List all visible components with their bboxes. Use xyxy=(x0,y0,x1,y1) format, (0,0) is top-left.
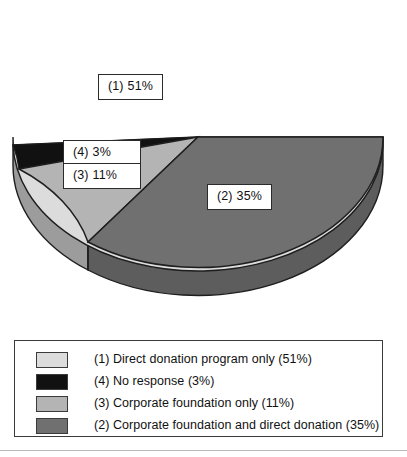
pie-label-slice-4: (4)3% xyxy=(63,140,141,166)
pie-chart-plot-area: (1)51% (4)3% (3)11% (2)35% xyxy=(0,0,407,320)
pie-label-slice-3: (3)11% xyxy=(63,163,141,189)
legend-item: (3) Corporate foundation only (11%) xyxy=(36,393,294,414)
legend-item-label: (1) Direct donation program only (51%) xyxy=(94,353,312,366)
pie-chart-svg xyxy=(0,0,407,320)
legend-item: (1) Direct donation program only (51%) xyxy=(36,349,312,370)
pie-label-slice-1-number: (1) xyxy=(108,79,124,93)
pie-label-slice-2-number: (2) xyxy=(217,189,233,203)
pie-label-slice-2: (2)35% xyxy=(207,184,272,210)
pie-label-slice-2-value: 35% xyxy=(237,189,262,203)
page-bottom-rule xyxy=(0,450,407,451)
legend-swatch-icon xyxy=(36,396,68,412)
pie-label-slice-3-number: (3) xyxy=(73,168,89,182)
legend-item: (4) No response (3%) xyxy=(36,371,215,392)
legend-item: (2) Corporate foundation and direct dona… xyxy=(36,415,379,436)
pie-label-slice-4-value: 3% xyxy=(93,145,111,159)
pie-chart-figure: (1)51% (4)3% (3)11% (2)35% (1) Direct do… xyxy=(0,0,407,457)
legend-item-label: (4) No response (3%) xyxy=(94,375,215,388)
pie-label-slice-1-value: 51% xyxy=(128,79,153,93)
pie-label-slice-1: (1)51% xyxy=(98,74,163,100)
legend-item-label: (2) Corporate foundation and direct dona… xyxy=(94,419,379,432)
chart-legend: (1) Direct donation program only (51%) (… xyxy=(14,340,383,437)
legend-swatch-icon xyxy=(36,418,68,434)
pie-label-slice-4-number: (4) xyxy=(73,145,89,159)
legend-swatch-icon xyxy=(36,352,68,368)
legend-item-label: (3) Corporate foundation only (11%) xyxy=(94,397,294,410)
legend-swatch-icon xyxy=(36,374,68,390)
pie-label-slice-3-value: 11% xyxy=(93,168,117,182)
